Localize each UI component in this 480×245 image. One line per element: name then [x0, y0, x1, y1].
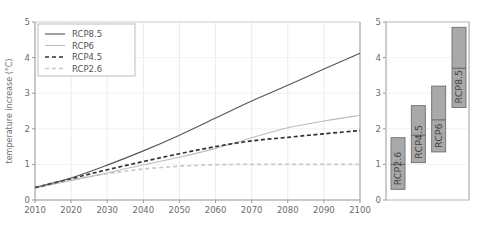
y-tick-label: 4	[376, 53, 381, 63]
y-tick-label: 5	[376, 17, 381, 27]
y-tick-label: 2	[376, 124, 381, 134]
y-tick-label: 3	[25, 88, 30, 98]
x-tick-label: 2100	[349, 205, 371, 215]
left-chart-svg: 0123452010202020302040205020602070208020…	[0, 0, 372, 245]
y-tick-label: 0	[25, 195, 30, 205]
bar-label-rcp4-5: RCP4.5	[413, 125, 424, 159]
x-tick-label: 2080	[277, 205, 299, 215]
legend-label-rcp2-6: RCP2.6	[72, 64, 102, 74]
bar-label-rcp8-5: RCP8.5	[454, 70, 465, 104]
legend-label-rcp4-5: RCP4.5	[72, 52, 102, 62]
x-tick-label: 2010	[24, 205, 46, 215]
x-tick-label: 2060	[205, 205, 227, 215]
x-tick-label: 2040	[133, 205, 155, 215]
x-tick-label: 2030	[96, 205, 118, 215]
right-chart-svg: 012345RCP2.6RCP4.5RCP6RCP8.5	[372, 0, 480, 245]
y-tick-label: 2	[25, 124, 30, 134]
legend-label-rcp6: RCP6	[72, 41, 94, 51]
y-tick-label: 4	[25, 53, 30, 63]
left-line-chart-panel: 0123452010202020302040205020602070208020…	[0, 0, 372, 245]
y-tick-label: 5	[25, 17, 30, 27]
right-range-bar-panel: 012345RCP2.6RCP4.5RCP6RCP8.5	[372, 0, 480, 245]
y-tick-label: 1	[25, 159, 30, 169]
y-axis-title: temperature increase (°C)	[5, 59, 14, 164]
legend-label-rcp8-5: RCP8.5	[72, 29, 102, 39]
y-tick-label: 3	[376, 88, 381, 98]
bar-label-rcp2-6: RCP2.6	[393, 152, 404, 186]
bar-label-rcp6: RCP6	[433, 123, 444, 148]
x-tick-label: 2020	[60, 205, 82, 215]
x-tick-label: 2090	[313, 205, 335, 215]
x-tick-label: 2070	[241, 205, 263, 215]
y-tick-label: 0	[376, 195, 381, 205]
figure-root: 0123452010202020302040205020602070208020…	[0, 0, 480, 245]
y-tick-label: 1	[376, 159, 381, 169]
x-tick-label: 2050	[169, 205, 191, 215]
